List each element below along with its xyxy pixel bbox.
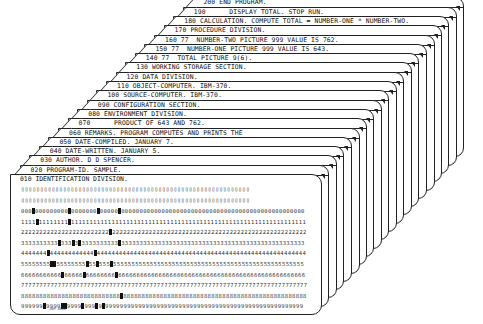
punch-hole: [43, 303, 46, 309]
punch-hole: [78, 240, 81, 246]
corner-mark-icon: [359, 127, 363, 132]
corner-mark-icon: [441, 25, 445, 30]
punch-hole: [47, 250, 50, 256]
digit-row-1: 1111111111111111111111111111111111111111…: [21, 219, 306, 225]
corner-mark-icon: [329, 164, 333, 169]
corner-mark-icon: [396, 81, 400, 86]
corner-mark-icon: [419, 53, 423, 58]
punch-hole: [61, 272, 64, 278]
card-text: 070 PRODUCT OF 643 AND 762.: [79, 119, 205, 128]
manufacturer-mark: IBM 5081: [49, 307, 66, 311]
punch-hole: [83, 272, 86, 278]
front-punch-card: 010 IDENTIFICATION DIVISION. ▯▯▯▯▯▯▯▯▯▯▯…: [10, 174, 322, 315]
punch-hole: [86, 261, 89, 267]
digit-row-2: 2222222222222222222222222222222222222222…: [21, 229, 307, 235]
punch-hole: [68, 219, 71, 225]
punch-hole: [109, 229, 112, 235]
punch-hole: [36, 219, 39, 225]
digit-row-3: 3333333333333333333333333333333333333333…: [21, 240, 305, 246]
zone-row-11: ▯▯▯▯▯▯▯▯▯▯▯▯▯▯▯▯▯▯▯▯▯▯▯▯▯▯▯▯▯▯▯▯▯▯▯▯▯▯▯▯…: [21, 196, 250, 203]
corner-mark-icon: [389, 90, 393, 95]
punch-hole: [95, 303, 98, 309]
digit-row-0: 0000000000000000000000000000000000000000…: [21, 208, 305, 214]
corner-mark-icon: [321, 174, 325, 179]
digit-row-6: 6666666666666666666666666666666666666666…: [21, 272, 305, 278]
corner-mark-icon: [449, 16, 453, 21]
digit-row-4: 4444444444444444444444444444444444444444…: [21, 250, 306, 256]
corner-mark-icon: [374, 109, 378, 114]
corner-mark-icon: [456, 6, 460, 11]
punch-hole: [96, 261, 99, 267]
punch-hole: [115, 272, 118, 278]
punch-hole: [110, 261, 113, 267]
punch-hole: [102, 303, 105, 309]
punch-hole: [53, 261, 56, 267]
card-text: 100 SOURCE-COMPUTER. IBM-370.: [107, 91, 221, 100]
corner-mark-icon: [344, 146, 348, 151]
punch-hole: [72, 240, 75, 246]
corner-mark-icon: [434, 34, 438, 39]
zone-row-12: ▯▯▯▯▯▯▯▯▯▯▯▯▯▯▯▯▯▯▯▯▯▯▯▯▯▯▯▯▯▯▯▯▯▯▯▯▯▯▯▯…: [21, 185, 250, 192]
digit-row-7: 7777777777777777777777777777777777777777…: [21, 282, 307, 288]
corner-mark-icon: [336, 155, 340, 160]
corner-mark-icon: [404, 71, 408, 76]
punch-hole: [68, 208, 71, 214]
front-card-text: 010 IDENTIFICATION DIVISION.: [20, 175, 128, 184]
corner-mark-icon: [352, 137, 356, 142]
card-text: 170 PROCEDURE DIVISION.: [175, 26, 266, 35]
punch-hole: [81, 303, 84, 309]
punch-hole: [94, 250, 97, 256]
punch-hole: [118, 240, 121, 246]
corner-mark-icon: [411, 62, 415, 67]
digit-row-8: 8888888888888888888888888888888888888888…: [21, 293, 307, 299]
punch-hole: [97, 208, 100, 214]
corner-mark-icon: [427, 44, 431, 49]
punch-hole: [58, 240, 61, 246]
punch-hole: [118, 208, 121, 214]
corner-mark-icon: [366, 118, 370, 123]
corner-mark-icon: [381, 99, 385, 104]
punch-hole: [32, 208, 35, 214]
punch-hole: [120, 293, 123, 299]
digit-row-5: 5555555555555555555555555555555555555555…: [21, 261, 304, 267]
